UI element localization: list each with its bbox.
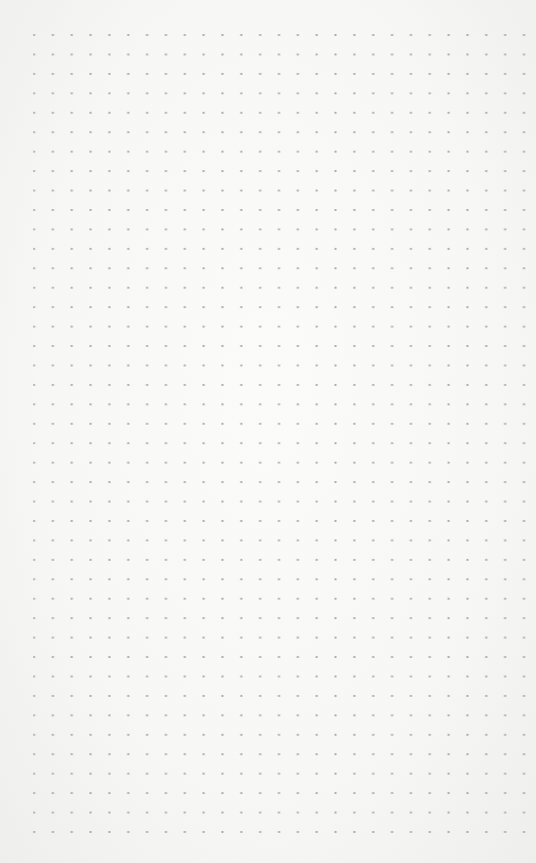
dot-grid-paper (0, 0, 536, 863)
dot-grid-pattern (33, 34, 526, 834)
